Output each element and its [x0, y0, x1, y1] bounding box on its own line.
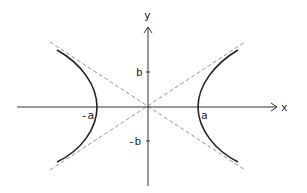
hyperbola-right-branch: [198, 50, 238, 162]
hyperbola-diagram: x y b -b -a a: [0, 0, 307, 193]
x-axis-label: x: [281, 101, 288, 114]
label-neg-b: -b: [128, 135, 141, 148]
hyperbola-left-branch: [57, 50, 97, 162]
label-a: a: [201, 109, 208, 122]
y-axis-label: y: [144, 9, 151, 22]
label-b: b: [136, 66, 143, 79]
label-neg-a: -a: [81, 109, 94, 122]
